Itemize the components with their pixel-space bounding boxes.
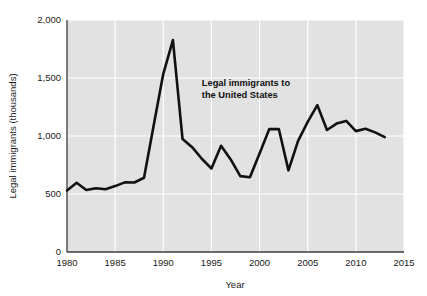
y-tick-label: 0 — [56, 246, 61, 257]
x-tick-label: 1995 — [201, 257, 222, 268]
series-callout-line-1: Legal immigrants to — [202, 78, 291, 88]
series-callout-line-2: the United States — [202, 90, 278, 100]
y-tick-label: 1,500 — [37, 72, 61, 83]
y-tick-label: 500 — [45, 188, 61, 199]
x-tick-label: 2005 — [297, 257, 318, 268]
x-tick-label: 1990 — [153, 257, 174, 268]
x-tick-label: 2010 — [345, 257, 366, 268]
x-tick-label: 2000 — [249, 257, 270, 268]
y-tick-label: 1,000 — [37, 130, 61, 141]
x-tick-label: 2015 — [393, 257, 414, 268]
immigration-line-chart: 05001,0001,5002,000 19801985199019952000… — [0, 0, 427, 296]
chart-figure: 05001,0001,5002,000 19801985199019952000… — [0, 0, 427, 296]
x-tick-label: 1985 — [105, 257, 126, 268]
y-tick-label: 2,000 — [37, 14, 61, 25]
x-tick-label: 1980 — [56, 257, 77, 268]
y-axis-title: Legal immigrants (thousands) — [7, 73, 18, 198]
x-axis-title: Year — [225, 279, 244, 290]
